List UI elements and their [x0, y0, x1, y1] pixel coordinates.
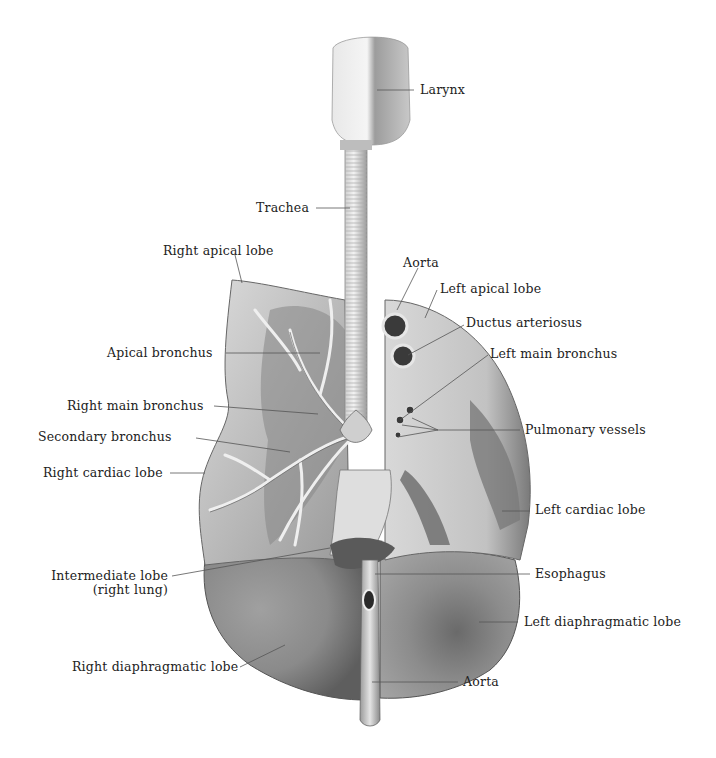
label-intermediate-lobe: Intermediate lobe (right lung): [40, 569, 168, 597]
ductus-ring: [392, 345, 414, 367]
lung-illustration: [0, 0, 716, 758]
label-ductus-arteriosus: Ductus arteriosus: [466, 316, 582, 330]
descending-aorta-shape: [360, 560, 380, 726]
label-right-apical-lobe: Right apical lobe: [163, 244, 274, 258]
label-aorta-top: Aorta: [403, 256, 439, 270]
right-diaphragmatic-lobe-shape: [204, 549, 365, 700]
label-right-cardiac-lobe: Right cardiac lobe: [43, 466, 163, 480]
label-right-diaphragmatic-lobe: Right diaphragmatic lobe: [72, 660, 238, 674]
label-trachea: Trachea: [256, 201, 309, 215]
label-right-main-bronchus: Right main bronchus: [67, 399, 204, 413]
anatomy-diagram: Larynx Trachea Right apical lobe Aorta L…: [0, 0, 716, 758]
label-pulmonary-vessels: Pulmonary vessels: [525, 423, 646, 437]
larynx-shape: [332, 37, 410, 145]
label-aorta-bottom: Aorta: [463, 675, 499, 689]
label-intermediate-lobe-line2: (right lung): [40, 583, 168, 597]
label-left-diaphragmatic-lobe: Left diaphragmatic lobe: [524, 615, 681, 629]
label-larynx: Larynx: [420, 83, 465, 97]
aorta-ring: [383, 314, 407, 338]
label-apical-bronchus: Apical bronchus: [107, 346, 213, 360]
label-left-apical-lobe: Left apical lobe: [440, 282, 541, 296]
label-left-main-bronchus: Left main bronchus: [490, 347, 617, 361]
label-esophagus: Esophagus: [535, 567, 606, 581]
label-left-cardiac-lobe: Left cardiac lobe: [535, 503, 646, 517]
label-intermediate-lobe-line1: Intermediate lobe: [40, 569, 168, 583]
label-secondary-bronchus: Secondary bronchus: [38, 430, 172, 444]
